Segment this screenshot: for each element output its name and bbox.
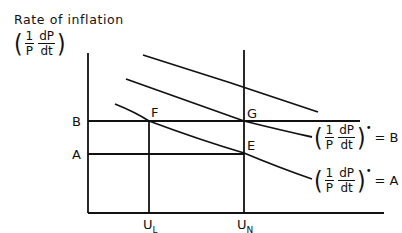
b-level-label: B [72,115,81,128]
curve-label-a: ( 1P dPdt )• = A [314,167,399,194]
curve-label-b: ( 1P dPdt )• = B [314,124,399,151]
top-curve [143,55,318,112]
a-level-label: A [72,148,81,161]
y-axis-label: ( 1P dPdt ) [14,30,66,57]
point-e-label: E [247,139,255,152]
bottom-curve-a [115,104,312,179]
un-tick-label: UN [237,218,253,231]
chart-title: Rate of inflation [14,12,124,27]
point-g-label: G [247,107,257,120]
point-f-label: F [151,106,158,119]
ul-tick-label: UL [143,218,158,231]
